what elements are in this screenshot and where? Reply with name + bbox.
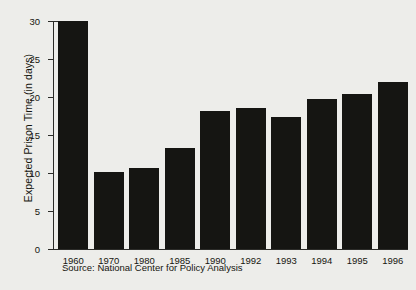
y-tick: 25 <box>48 59 53 60</box>
y-tick: 30 <box>48 21 53 22</box>
bar <box>129 168 159 249</box>
source-note: Source: National Center for Policy Analy… <box>62 262 243 273</box>
bar <box>236 108 266 249</box>
y-tick: 5 <box>48 211 53 212</box>
y-tick-label: 10 <box>29 168 40 179</box>
x-tick-label: 1992 <box>240 255 261 266</box>
bar <box>200 111 230 249</box>
y-tick-label: 20 <box>29 92 40 103</box>
bar <box>342 94 372 249</box>
y-tick: 10 <box>48 173 53 174</box>
x-tick-label: 1994 <box>311 255 332 266</box>
x-tick-label: 1995 <box>347 255 368 266</box>
y-tick-label: 0 <box>35 244 40 255</box>
y-tick-label: 25 <box>29 54 40 65</box>
bar <box>94 172 124 249</box>
bar <box>378 82 408 249</box>
y-axis-top-cap <box>53 21 58 22</box>
y-tick: 15 <box>48 135 53 136</box>
y-tick-label: 15 <box>29 130 40 141</box>
bar <box>58 21 88 249</box>
y-tick-label: 5 <box>35 206 40 217</box>
x-axis-line <box>53 249 408 250</box>
y-axis-line <box>53 21 54 250</box>
bar <box>307 99 337 249</box>
x-tick-label: 1996 <box>382 255 403 266</box>
bar <box>271 117 301 249</box>
bar-chart-figure: Expected Prison Time (in days) 051015202… <box>0 0 416 290</box>
bar <box>165 148 195 249</box>
y-tick-label: 30 <box>29 16 40 27</box>
plot-area: 051015202530 196019701980198519901992199… <box>53 21 408 249</box>
y-tick: 20 <box>48 97 53 98</box>
y-tick: 0 <box>48 249 53 250</box>
x-tick-label: 1993 <box>276 255 297 266</box>
